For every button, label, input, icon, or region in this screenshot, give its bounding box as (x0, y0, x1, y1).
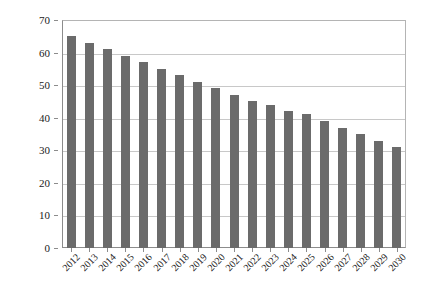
x-tick-label-2018: 2018 (170, 252, 191, 273)
bar-2021 (230, 95, 239, 248)
y-axis: 010203040506070 (0, 0, 62, 295)
bar-2017 (157, 69, 166, 248)
x-tick-label-2025: 2025 (296, 252, 317, 273)
x-tick-label-2012: 2012 (61, 252, 82, 273)
bar-2020 (211, 88, 220, 248)
y-tick-label-70: 70 (39, 15, 50, 26)
y-tick-mark-0 (54, 248, 58, 249)
y-tick-label-40: 40 (39, 112, 50, 123)
y-tick-label-60: 60 (39, 47, 50, 58)
x-tick-label-2026: 2026 (314, 252, 335, 273)
bars-layer (62, 20, 406, 248)
x-tick-label-2029: 2029 (369, 252, 390, 273)
y-tick-label-0: 0 (45, 243, 51, 254)
y-tick-mark-20 (54, 183, 58, 184)
x-tick-label-2020: 2020 (206, 252, 227, 273)
x-axis: 2012201320142015201620172018201920202021… (62, 252, 406, 295)
bar-2028 (356, 134, 365, 248)
y-tick-label-50: 50 (39, 80, 50, 91)
bar-2019 (193, 82, 202, 248)
x-tick-label-2030: 2030 (387, 252, 408, 273)
bar-2029 (374, 141, 383, 248)
x-tick-label-2021: 2021 (224, 252, 245, 273)
bar-2026 (320, 121, 329, 248)
y-tick-mark-70 (54, 20, 58, 21)
bar-2015 (121, 56, 130, 248)
bar-2014 (103, 49, 112, 248)
bar-2018 (175, 75, 184, 248)
x-tick-label-2017: 2017 (151, 252, 172, 273)
bar-chart: 010203040506070 201220132014201520162017… (0, 0, 425, 295)
x-tick-label-2019: 2019 (188, 252, 209, 273)
y-tick-label-30: 30 (39, 145, 50, 156)
bar-2013 (85, 43, 94, 248)
x-tick-label-2027: 2027 (332, 252, 353, 273)
y-tick-mark-30 (54, 150, 58, 151)
bar-2012 (67, 36, 76, 248)
x-tick-label-2016: 2016 (133, 252, 154, 273)
y-tick-label-10: 10 (39, 210, 50, 221)
bar-2016 (139, 62, 148, 248)
bar-2030 (392, 147, 401, 248)
bar-2023 (266, 105, 275, 248)
y-tick-mark-40 (54, 118, 58, 119)
bar-2027 (338, 128, 347, 249)
y-tick-mark-50 (54, 85, 58, 86)
x-tick-label-2022: 2022 (242, 252, 263, 273)
x-tick-label-2028: 2028 (351, 252, 372, 273)
y-tick-mark-60 (54, 53, 58, 54)
y-tick-mark-10 (54, 215, 58, 216)
bar-2025 (302, 114, 311, 248)
bar-2024 (284, 111, 293, 248)
bar-2022 (248, 101, 257, 248)
y-tick-label-20: 20 (39, 177, 50, 188)
